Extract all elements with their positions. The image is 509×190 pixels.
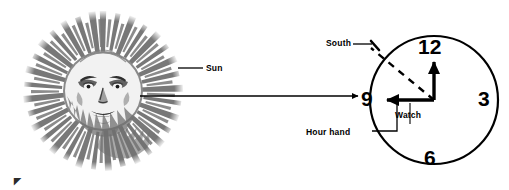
sun-face-woodcut-icon <box>22 10 184 172</box>
watch-numeral-3: 3 <box>478 88 490 109</box>
watch-numeral-6: 6 <box>424 147 436 168</box>
hour-hand-label: Hour hand <box>306 127 350 137</box>
south-label: South <box>326 38 351 48</box>
watch-numeral-9: 9 <box>361 88 373 109</box>
watch-label: Watch <box>395 110 421 120</box>
diagram-canvas: Sun South Hour hand Watch 12 3 6 9 ◤ <box>0 0 509 190</box>
corner-artifact-mark: ◤ <box>14 176 21 186</box>
watch-numeral-12: 12 <box>418 36 441 57</box>
sun-label: Sun <box>206 63 223 73</box>
